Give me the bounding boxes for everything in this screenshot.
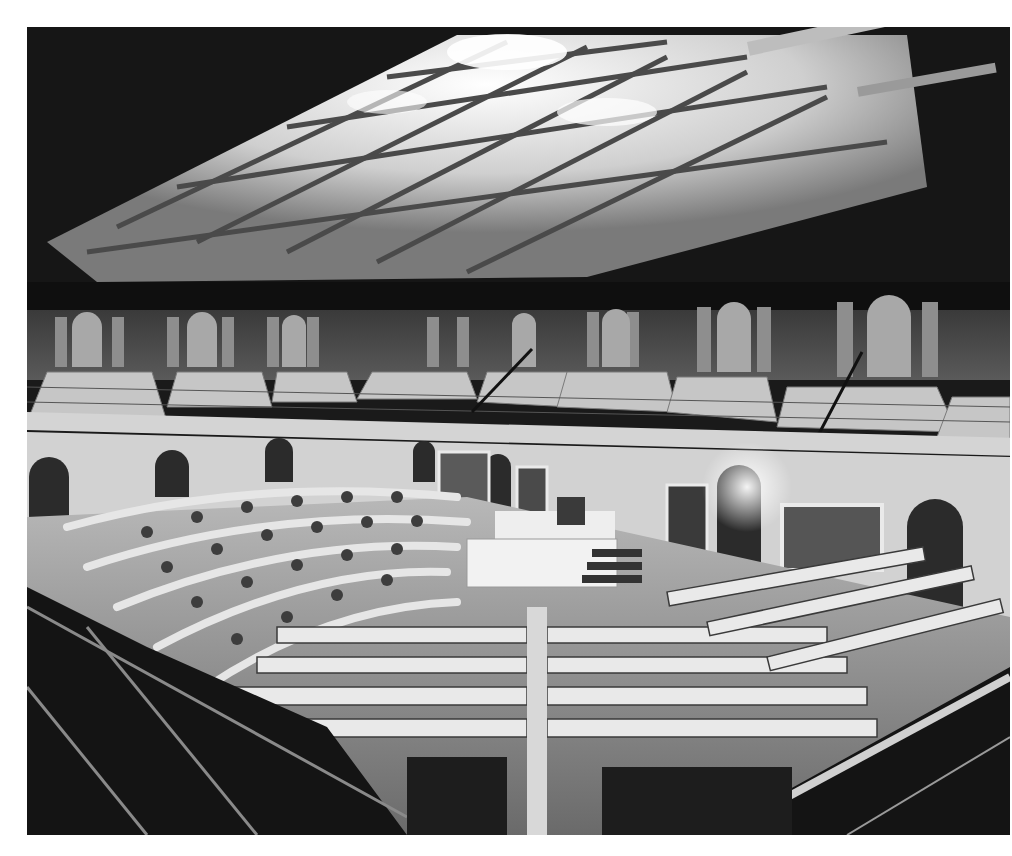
light-glare bbox=[702, 442, 792, 532]
chamber-illustration bbox=[27, 27, 1010, 835]
cornice bbox=[27, 282, 1010, 310]
central-aisle bbox=[527, 607, 547, 835]
chamber-photograph: Historical black-and-white photograph of… bbox=[27, 27, 1010, 835]
